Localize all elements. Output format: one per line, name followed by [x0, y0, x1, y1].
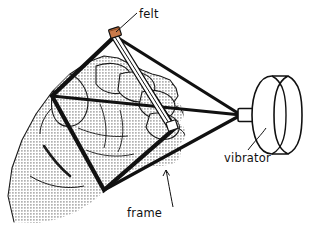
vibrator-concave-edge — [288, 76, 302, 154]
felt-leader-line — [116, 13, 137, 32]
label-vibrator: vibrator — [224, 151, 271, 165]
diagram-figure: felt vibrator frame — [0, 0, 321, 230]
label-felt: felt — [139, 7, 159, 21]
frame-leader-line — [166, 170, 173, 207]
diagram-canvas: felt vibrator frame — [0, 0, 321, 230]
label-frame: frame — [127, 206, 162, 220]
vibrator-assembly — [238, 76, 302, 154]
